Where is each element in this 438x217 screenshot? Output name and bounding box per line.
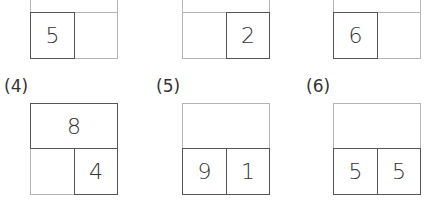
problem-label-6: (6) xyxy=(306,76,330,96)
whole-cell: 8 xyxy=(30,103,118,149)
part-cell-left: 9 xyxy=(182,148,227,195)
part-cell-left: 5 xyxy=(333,148,378,195)
problem-label-5: (5) xyxy=(156,76,180,96)
part-cell-right: 1 xyxy=(226,148,270,195)
number-bond-3: 6 xyxy=(333,0,421,59)
number-bond-5: 9 1 xyxy=(182,103,270,195)
number-bond-4: 8 4 xyxy=(30,103,118,195)
number-bond-2: 2 xyxy=(182,0,270,59)
number-bond-1: 5 xyxy=(30,0,118,59)
part-cell-left: 6 xyxy=(333,12,378,59)
part-cell-right xyxy=(377,12,421,59)
problem-label-4: (4) xyxy=(4,76,28,96)
part-cell-right: 5 xyxy=(377,148,421,195)
part-cell-left xyxy=(182,12,227,59)
part-cell-left: 5 xyxy=(30,12,75,59)
part-cell-right: 4 xyxy=(74,148,118,195)
part-cell-left xyxy=(30,148,75,195)
number-bond-6: 5 5 xyxy=(333,103,421,195)
part-cell-right: 2 xyxy=(226,12,270,59)
part-cell-right xyxy=(74,12,118,59)
whole-cell xyxy=(182,103,270,149)
whole-cell xyxy=(333,103,421,149)
